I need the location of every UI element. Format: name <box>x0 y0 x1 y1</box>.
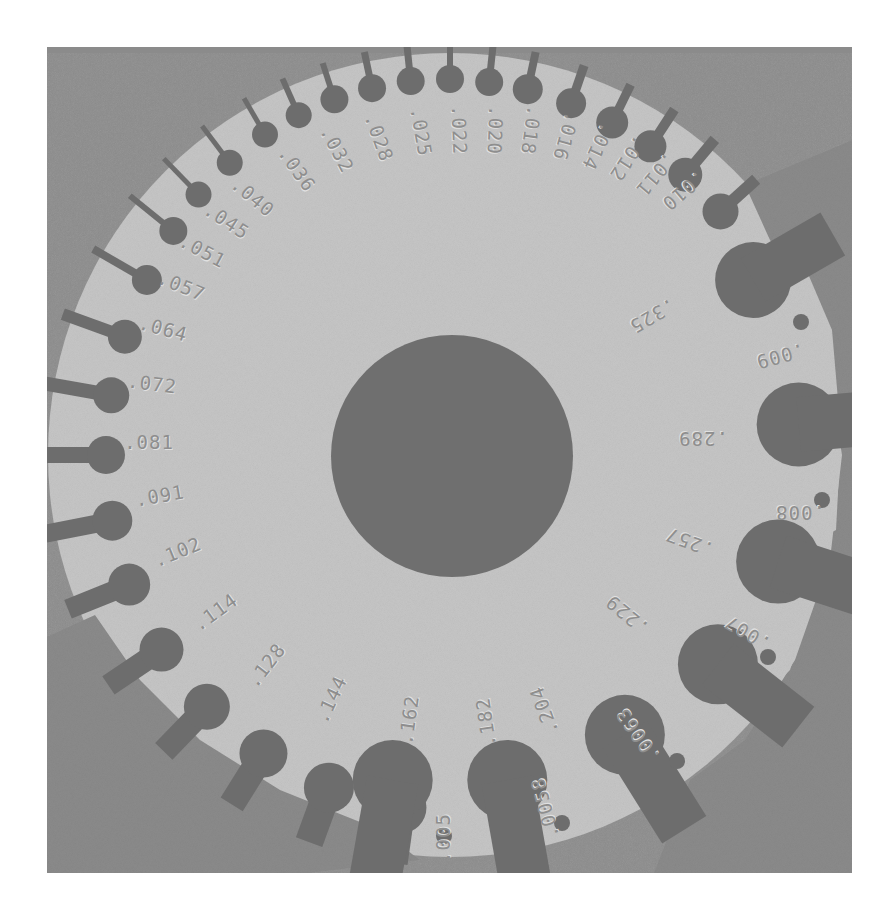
notch-channel <box>799 416 852 424</box>
gauge-slot-hole <box>184 684 230 730</box>
gauge-slot-hole <box>304 763 354 813</box>
gauge-slot-hole <box>239 730 287 778</box>
svg-text:.005: .005 <box>432 813 454 863</box>
sheet-gauge-label: .005.005 <box>432 812 455 863</box>
notch-channel <box>778 562 852 592</box>
gauge-slot-hole <box>513 74 543 104</box>
gauge-slot-hole <box>139 628 183 672</box>
gauge-slot-hole <box>320 85 348 113</box>
wire-gauge-photo: .040.040.036.036.032.032.028.028.025.025… <box>47 47 852 873</box>
large-wire-gauge-label: .289.289 <box>677 427 728 450</box>
notch-channel <box>373 780 392 873</box>
gauge-slot-hole <box>397 67 425 95</box>
gauge-slot-hole <box>358 74 386 102</box>
gauge-slot-hole <box>92 501 132 541</box>
gauge-slot-hole <box>252 122 278 148</box>
gauge-slot-hole <box>475 68 503 96</box>
svg-text:.022: .022 <box>448 105 472 156</box>
gauge-slot-hole <box>703 193 739 229</box>
svg-text:.008: .008 <box>775 502 825 524</box>
center-hole <box>331 335 573 577</box>
gauge-slot-hole <box>286 102 312 128</box>
wire-gauge-disc: .040.040.036.036.032.032.028.028.025.025… <box>47 47 852 873</box>
wire-gauge-label: .022.022 <box>447 105 472 157</box>
gauge-slot-hole <box>93 377 129 413</box>
wire-gauge-label: .081.081 <box>124 431 175 454</box>
gauge-slot-hole <box>108 320 142 354</box>
svg-text:.020: .020 <box>484 105 508 156</box>
gauge-slot-hole <box>436 65 464 93</box>
gauge-slot-hole <box>108 564 150 606</box>
svg-text:.289: .289 <box>678 428 728 450</box>
sheet-gauge-label: .008.008 <box>774 501 825 524</box>
tab-pin-hole <box>669 753 685 769</box>
gauge-slot-hole <box>87 436 125 474</box>
gauge-slot-hole <box>217 150 243 176</box>
tab-pin-hole <box>793 314 809 330</box>
svg-text:.081: .081 <box>124 431 174 453</box>
notch-channel <box>507 780 526 873</box>
wire-gauge-label: .020.020 <box>483 105 508 157</box>
